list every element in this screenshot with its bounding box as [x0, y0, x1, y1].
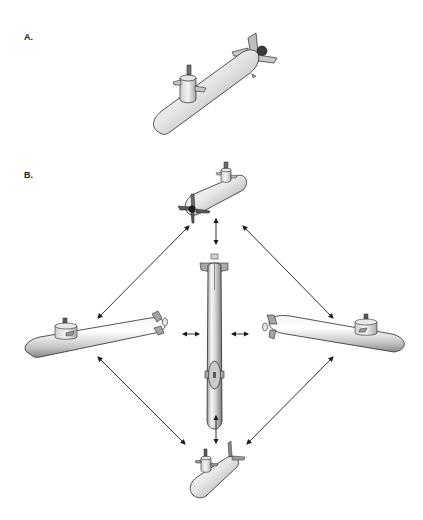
- sail-plane-left: [195, 460, 201, 463]
- conning-tower-top: [355, 319, 377, 325]
- conning-tower-top: [55, 323, 77, 329]
- propeller-hub: [163, 318, 168, 326]
- sail-plane-right: [231, 175, 237, 178]
- conning-tower: [180, 78, 196, 103]
- arrow-left-bottom: [98, 357, 185, 444]
- diagram-canvas: [0, 0, 423, 520]
- periscope-mast: [213, 372, 216, 378]
- upper-rudder: [228, 441, 232, 457]
- hull: [154, 50, 259, 135]
- stern-plane-right: [258, 55, 277, 63]
- hull: [25, 318, 165, 358]
- conning-tower-top: [221, 168, 231, 172]
- periscope-mast: [187, 65, 191, 75]
- propeller-hub: [263, 323, 268, 331]
- top-view-submarine: [178, 162, 247, 223]
- lower-rudder: [191, 212, 194, 223]
- stern-plane: [232, 456, 245, 460]
- hull: [269, 315, 404, 352]
- propeller-hub: [189, 206, 196, 213]
- conning-tower-top: [201, 456, 211, 460]
- conning-tower: [201, 458, 211, 472]
- periscope-mast: [204, 449, 207, 457]
- sail-plane-right: [211, 463, 218, 466]
- bottom-view-submarine: [190, 441, 245, 498]
- left-view-submarine: [25, 311, 167, 357]
- panel-a-submarine: [154, 33, 277, 134]
- right-view-submarine: [263, 314, 405, 352]
- lower-rudder: [269, 330, 276, 339]
- propeller-hub: [211, 254, 218, 259]
- conning-tower-top: [180, 75, 196, 81]
- stern-plane-left: [178, 206, 190, 210]
- sail-plane-left: [216, 172, 221, 175]
- sail-plane-left: [173, 80, 181, 85]
- arrow-top-left: [98, 226, 189, 318]
- lower-rudder: [252, 74, 256, 78]
- center-view-submarine: [200, 254, 228, 429]
- arrow-top-right: [243, 226, 333, 318]
- arrow-right-bottom: [247, 357, 333, 444]
